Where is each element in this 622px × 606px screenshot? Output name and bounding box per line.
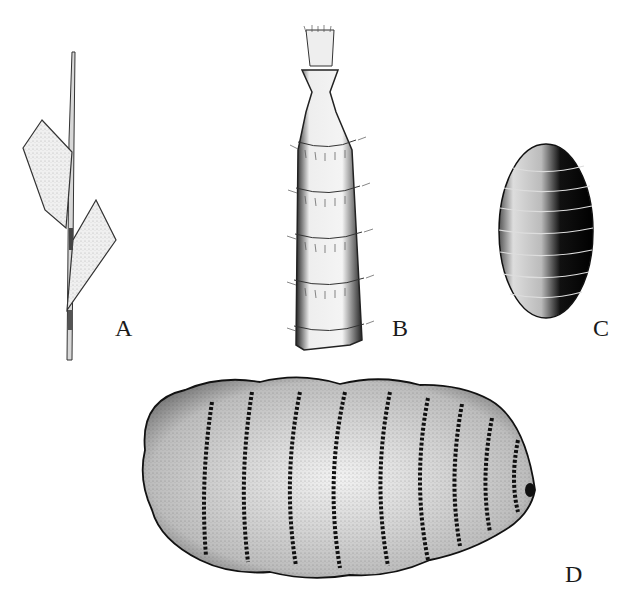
figure-canvas — [0, 0, 622, 606]
panel-b-drawing — [287, 25, 374, 350]
panel-d-drawing — [143, 377, 535, 577]
panel-label-c: C — [593, 316, 609, 340]
panel-label-d: D — [565, 562, 582, 586]
panel-c-drawing — [499, 144, 593, 318]
panel-label-b: B — [392, 316, 408, 340]
panel-a-drawing — [23, 52, 116, 360]
panel-label-a: A — [115, 316, 132, 340]
